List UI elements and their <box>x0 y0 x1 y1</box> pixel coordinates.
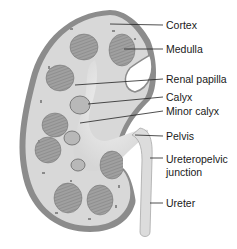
label-ureteropelvic-junction-line2: junction <box>166 166 202 178</box>
label-renal-papilla: Renal papilla <box>166 73 227 85</box>
label-medulla: Medulla <box>166 43 203 55</box>
kidney-diagram <box>0 0 237 249</box>
label-ureter: Ureter <box>166 197 195 209</box>
label-calyx: Calyx <box>166 91 192 103</box>
label-pelvis: Pelvis <box>166 130 194 142</box>
label-minor-calyx: Minor calyx <box>166 105 219 117</box>
label-cortex: Cortex <box>166 19 197 31</box>
label-ureteropelvic-junction-line1: Ureteropelvic <box>166 153 228 165</box>
